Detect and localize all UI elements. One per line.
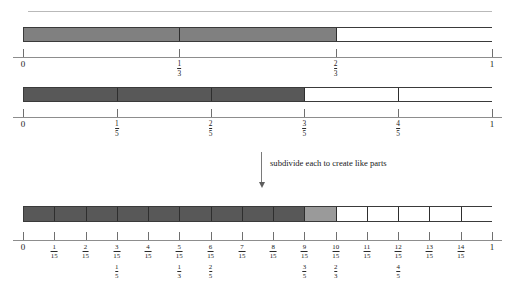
axis-tick xyxy=(336,232,337,240)
axis-tick xyxy=(211,109,212,117)
axis-tick xyxy=(336,49,337,57)
fraction-numerator: 4 xyxy=(145,243,152,250)
fraction-numerator: 12 xyxy=(395,243,402,250)
tick-label-value: 0 xyxy=(21,120,26,129)
axis-tick xyxy=(211,232,212,240)
axis-tick xyxy=(23,232,24,240)
axis-tick xyxy=(492,232,493,240)
fraction-numerator: 6 xyxy=(207,243,214,250)
fraction-denominator: 5 xyxy=(115,272,118,279)
bar-segment xyxy=(430,207,461,221)
fraction-numerator: 13 xyxy=(426,243,433,250)
tick-label: 45 xyxy=(396,120,400,137)
tick-label: 25 xyxy=(209,120,213,137)
tick-label: 35 xyxy=(303,120,307,137)
fraction-denominator: 15 xyxy=(145,252,152,259)
tick-label-value: 1 xyxy=(490,243,495,252)
fraction-label: 315 xyxy=(113,243,120,259)
fraction-numerator: 10 xyxy=(332,243,339,250)
bar-segment xyxy=(118,207,149,221)
fraction-numerator: 8 xyxy=(270,243,277,250)
tick-label-value: 1 xyxy=(490,120,495,129)
bar-segment xyxy=(399,88,493,101)
tick-label: 0 xyxy=(21,243,26,252)
bar-segment xyxy=(368,207,399,221)
bar-segment xyxy=(118,88,212,101)
fraction-denominator: 15 xyxy=(238,252,245,259)
fraction-numerator: 1 xyxy=(115,120,119,128)
fraction-denominator: 15 xyxy=(176,252,183,259)
axis-tick xyxy=(304,232,305,240)
tick-label-value: 1 xyxy=(490,60,495,69)
bar-segment xyxy=(149,207,180,221)
bar-segment xyxy=(24,28,180,41)
tick-label: 115 xyxy=(51,243,58,260)
subdivide-arrow-head xyxy=(259,182,265,188)
fraction-denominator: 15 xyxy=(82,252,89,259)
axis-tick xyxy=(429,232,430,240)
fraction-denominator: 15 xyxy=(113,252,120,259)
tick-label: 315 xyxy=(113,243,120,260)
fraction-denominator: 15 xyxy=(457,252,464,259)
fraction-numerator: 11 xyxy=(363,243,370,250)
fraction-numerator: 1 xyxy=(178,263,181,270)
tick-label-value: 0 xyxy=(21,60,26,69)
fraction-numerator: 2 xyxy=(209,120,213,128)
fraction-numerator: 4 xyxy=(396,120,400,128)
fraction-denominator: 3 xyxy=(178,272,181,279)
fraction-denominator: 3 xyxy=(334,272,337,279)
fraction-label: 1215 xyxy=(395,243,402,259)
fraction-denominator: 5 xyxy=(396,130,400,138)
fraction-label: 25 xyxy=(209,263,212,279)
tick-label: 1215 xyxy=(395,243,402,260)
fraction-label: 615 xyxy=(207,243,214,259)
fraction-label: 15 xyxy=(115,263,118,279)
bar-segment xyxy=(305,88,399,101)
equivalent-fraction-label: 13 xyxy=(178,263,181,280)
tick-label: 1415 xyxy=(457,243,464,260)
top-divider-rule xyxy=(28,11,492,12)
bar-segment xyxy=(305,207,336,221)
fraction-denominator: 5 xyxy=(303,130,307,138)
axis-tick xyxy=(242,232,243,240)
axis-tick xyxy=(461,232,462,240)
axis-tick xyxy=(398,109,399,117)
fraction-denominator: 5 xyxy=(115,130,119,138)
axis-line xyxy=(13,117,502,118)
axis-tick xyxy=(179,49,180,57)
bar-segment xyxy=(337,28,493,41)
axis-tick xyxy=(54,232,55,240)
equivalent-fraction-label: 25 xyxy=(209,263,212,280)
bar-segment xyxy=(462,207,493,221)
tick-label: 1 xyxy=(490,120,495,129)
fraction-numerator: 3 xyxy=(303,120,307,128)
bar-frame xyxy=(23,87,492,102)
tick-label: 1 xyxy=(490,243,495,252)
fraction-label: 25 xyxy=(209,120,213,137)
fraction-label: 415 xyxy=(145,243,152,259)
axis-tick xyxy=(398,232,399,240)
tick-label: 915 xyxy=(301,243,308,260)
bar-segment xyxy=(274,207,305,221)
tick-label: 515 xyxy=(176,243,183,260)
tick-label: 1315 xyxy=(426,243,433,260)
tick-label: 1115 xyxy=(363,243,370,260)
fraction-numerator: 2 xyxy=(334,263,337,270)
fraction-numerator: 2 xyxy=(82,243,89,250)
axis-line xyxy=(13,57,502,58)
fraction-numerator: 7 xyxy=(238,243,245,250)
fraction-label: 45 xyxy=(396,120,400,137)
fraction-denominator: 15 xyxy=(426,252,433,259)
tick-label: 215 xyxy=(82,243,89,260)
axis-tick xyxy=(117,109,118,117)
bar-segment xyxy=(180,207,211,221)
fraction-numerator: 14 xyxy=(457,243,464,250)
tick-label: 13 xyxy=(177,60,181,77)
fraction-denominator: 15 xyxy=(207,252,214,259)
axis-tick xyxy=(23,109,24,117)
subdivide-caption: subdivide each to create like parts xyxy=(270,158,387,168)
fraction-label: 23 xyxy=(334,263,337,279)
fraction-denominator: 3 xyxy=(334,70,338,78)
bar-segment xyxy=(24,88,118,101)
fraction-denominator: 15 xyxy=(332,252,339,259)
